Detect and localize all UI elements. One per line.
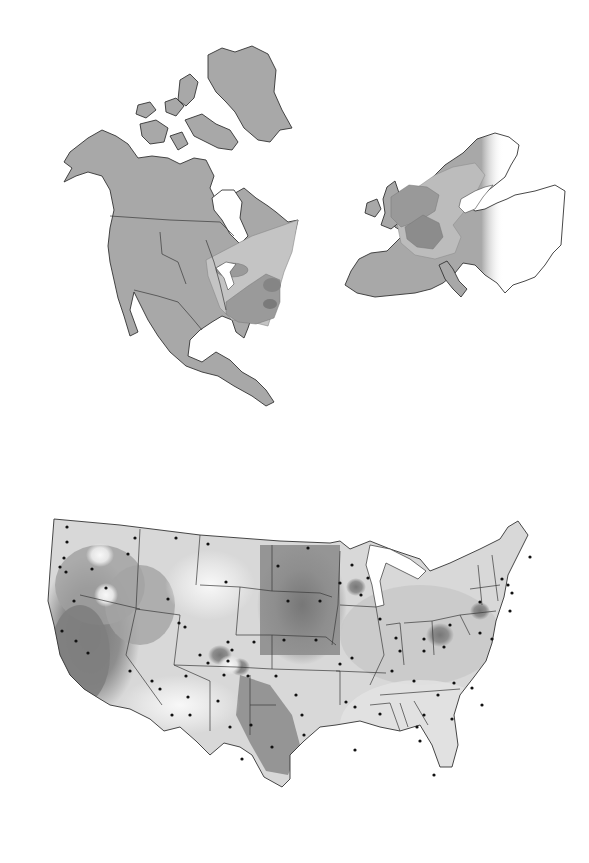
contour-surface bbox=[40, 505, 560, 805]
us-contour-map bbox=[40, 505, 560, 805]
na-zone-level-3 bbox=[263, 278, 281, 292]
baffin-island bbox=[185, 114, 238, 150]
victoria-island bbox=[140, 120, 168, 144]
arctic-island bbox=[170, 132, 188, 150]
arctic-island bbox=[136, 102, 156, 118]
ireland bbox=[365, 199, 381, 217]
arctic-island bbox=[178, 74, 198, 106]
europe-map bbox=[335, 125, 589, 310]
north-america-map-svg bbox=[30, 40, 310, 415]
us-contour-map-svg bbox=[40, 505, 560, 805]
europe-map-svg bbox=[335, 125, 589, 310]
na-zone-level-4 bbox=[263, 299, 277, 309]
north-america-map bbox=[30, 40, 310, 415]
